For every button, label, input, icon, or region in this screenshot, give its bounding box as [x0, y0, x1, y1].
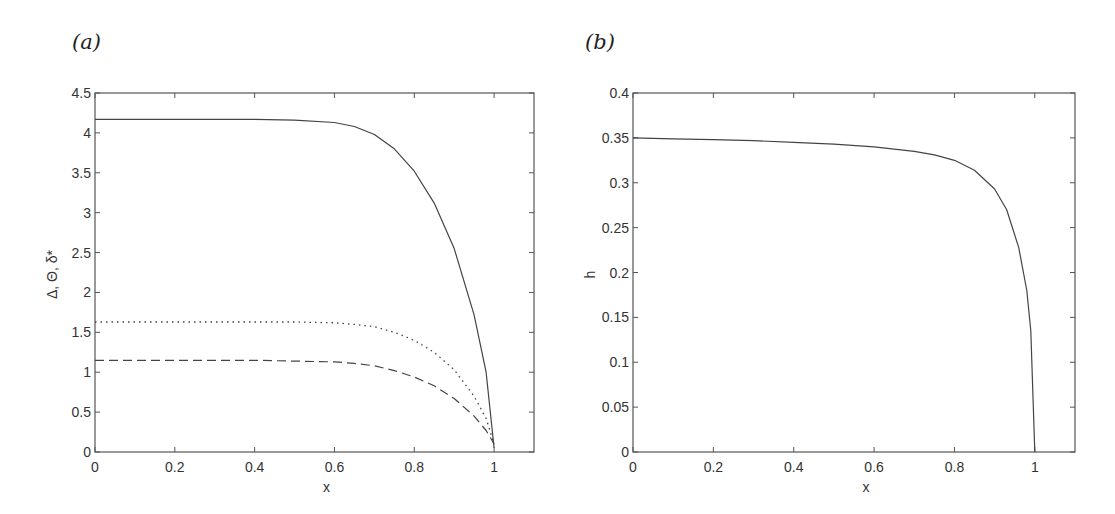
y-tick-label: 0.05	[602, 399, 629, 415]
x-tick-label: 0.2	[165, 459, 185, 475]
y-tick-label: 0.25	[602, 220, 629, 236]
y-tick-label: 0.35	[602, 130, 629, 146]
y-tick-label: 0.2	[610, 265, 630, 281]
x-tick-label: 1	[1031, 459, 1039, 475]
y-tick-label: 4.5	[72, 85, 92, 101]
x-tick-label: 0.2	[704, 459, 724, 475]
chart-b: 00.20.40.60.8100.050.10.150.20.250.30.35…	[582, 85, 1075, 495]
x-tick-label: 0.8	[405, 459, 425, 475]
y-tick-label: 2.5	[72, 245, 92, 261]
series-line-dotted	[95, 322, 494, 444]
y-tick-label: 0.5	[72, 404, 92, 420]
x-tick-label: 0	[91, 459, 99, 475]
plot-frame	[633, 93, 1075, 452]
figure-canvas: 00.20.40.60.8100.511.522.533.544.5xΔ, Θ,…	[0, 0, 1115, 514]
x-tick-label: 0.4	[245, 459, 265, 475]
x-axis-label: x	[863, 479, 870, 495]
x-tick-label: 0.8	[945, 459, 965, 475]
y-tick-label: 1	[83, 364, 91, 380]
x-tick-label: 1	[490, 459, 498, 475]
x-tick-label: 0	[629, 459, 637, 475]
y-tick-label: 0.1	[610, 354, 630, 370]
x-tick-label: 0.6	[864, 459, 884, 475]
y-tick-label: 0	[621, 444, 629, 460]
x-tick-label: 0.4	[784, 459, 804, 475]
series-line-dashed	[95, 360, 494, 444]
y-tick-label: 3.5	[72, 165, 92, 181]
y-axis-label: h	[582, 271, 598, 279]
y-tick-label: 0.4	[610, 85, 630, 101]
y-tick-label: 0.15	[602, 309, 629, 325]
y-axis-label: Δ, Θ, δ*	[44, 249, 60, 299]
y-tick-label: 1.5	[72, 324, 92, 340]
y-tick-label: 2	[83, 284, 91, 300]
y-tick-label: 4	[83, 125, 91, 141]
y-tick-label: 3	[83, 205, 91, 221]
chart-a: 00.20.40.60.8100.511.522.533.544.5xΔ, Θ,…	[44, 85, 534, 495]
x-tick-label: 0.6	[325, 459, 345, 475]
y-tick-label: 0	[83, 444, 91, 460]
series-line-h	[633, 138, 1035, 452]
plot-frame	[95, 93, 534, 452]
y-tick-label: 0.3	[610, 175, 630, 191]
x-axis-label: x	[323, 479, 330, 495]
series-line-solid	[95, 119, 494, 448]
